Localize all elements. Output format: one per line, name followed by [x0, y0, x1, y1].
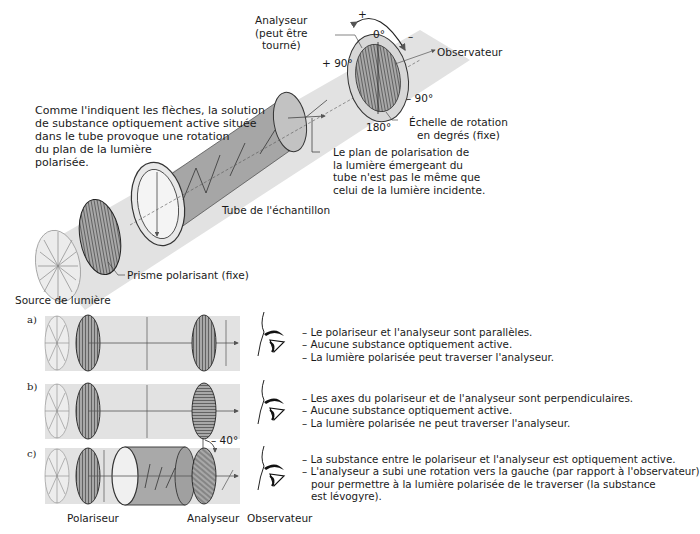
eye-icon — [258, 446, 284, 490]
plus-sign: + — [358, 8, 367, 21]
row-a-figure — [45, 315, 240, 371]
echelle-line: en degrés (fixe) — [409, 129, 508, 142]
row-c-line: pour permettre à la lumière polarisée de… — [302, 478, 700, 490]
comment-line: du plan de la lumière — [35, 143, 265, 156]
minus-sign: – — [408, 30, 413, 43]
row-c-line: – La substance entre le polariseur et l'… — [302, 453, 700, 465]
plus-90-label: + 90° — [322, 57, 353, 70]
echelle-label: Échelle de rotation en degrés (fixe) — [409, 116, 508, 141]
plan-note-line: tube n'est pas le même que — [333, 171, 485, 184]
plan-note-line: Le plan de polarisation de — [333, 146, 485, 159]
angle-label: – 40° — [211, 434, 238, 447]
analyseur-bottom-label: Analyseur — [187, 512, 239, 525]
row-c-line: – L'analyseur a subi une rotation vers l… — [302, 465, 700, 477]
row-a-text: – Le polariseur et l'analyseur sont para… — [302, 326, 554, 363]
row-b-line: – Aucune substance optiquement active. — [302, 404, 633, 416]
echelle-line: Échelle de rotation — [409, 116, 508, 129]
row-a-line: – Le polariseur et l'analyseur sont para… — [302, 326, 554, 338]
prisme-label: Prisme polarisant (fixe) — [127, 269, 249, 282]
180-degree-label: 180° — [366, 121, 391, 134]
plan-note: Le plan de polarisation de la lumière ém… — [333, 146, 485, 196]
plan-note-line: la lumière émergeant du — [333, 159, 485, 172]
comment-line: Comme l'indiquent les flèches, la soluti… — [35, 104, 265, 117]
eye-icon — [258, 312, 284, 356]
row-a-line: – La lumière polarisée peut traverser l'… — [302, 351, 554, 363]
source-label: Source de lumière — [15, 294, 111, 307]
minus-90-label: – 90° — [406, 92, 433, 105]
analyseur-label: Analyseur (peut être tourné) — [255, 14, 307, 52]
analyseur-line: tourné) — [255, 39, 307, 52]
row-b-figure — [45, 383, 240, 439]
row-c-figure — [45, 438, 240, 505]
comment-paragraph: Comme l'indiquent les flèches, la soluti… — [35, 104, 265, 169]
row-b-line: – Les axes du polariseur et de l'analyse… — [302, 392, 633, 404]
row-b-text: – Les axes du polariseur et de l'analyse… — [302, 392, 633, 429]
observateur-label: Observateur — [437, 46, 502, 59]
analyseur-line: Analyseur — [255, 14, 307, 27]
observateur-bottom-label: Observateur — [247, 512, 312, 525]
row-b-line: – La lumière polarisée ne peut traverser… — [302, 417, 633, 429]
row-c-line: est lévogyre). — [302, 490, 700, 502]
comment-line: polarisée. — [35, 156, 265, 169]
plan-note-line: celui de la lumière incidente. — [333, 184, 485, 197]
tube-label: Tube de l'échantillon — [222, 204, 330, 217]
eye-icon — [258, 380, 284, 424]
comment-line: de substance optiquement active située — [35, 117, 265, 130]
polariseur-label: Polariseur — [67, 512, 119, 525]
row-b-letter: b) — [27, 381, 37, 392]
analyseur-line: (peut être — [255, 27, 307, 40]
row-c-text: – La substance entre le polariseur et l'… — [302, 453, 700, 502]
zero-degree-label: 0° — [373, 28, 385, 41]
row-c-letter: c) — [27, 448, 37, 459]
row-a-letter: a) — [27, 314, 37, 325]
comment-line: dans le tube provoque une rotation — [35, 130, 265, 143]
row-a-line: – Aucune substance optiquement active. — [302, 338, 554, 350]
